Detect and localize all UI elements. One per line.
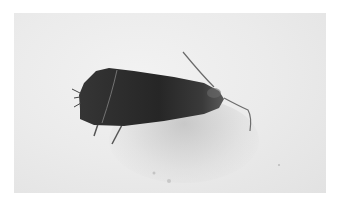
moth-illustration xyxy=(14,13,326,193)
moth-body xyxy=(79,68,224,126)
antenna-lower xyxy=(224,98,251,131)
photo xyxy=(14,13,326,193)
